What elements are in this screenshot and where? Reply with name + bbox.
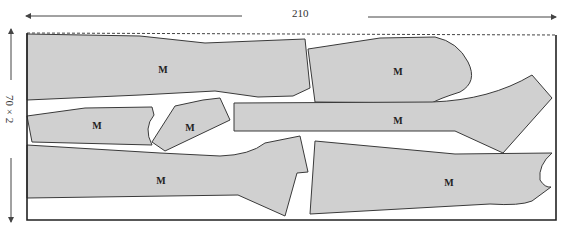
piece-label: M: [444, 177, 454, 188]
width-label: 210: [292, 7, 309, 19]
pattern-piece-1: M: [27, 34, 310, 100]
marker-diagram: 210 70 × 2 M M M M M: [0, 0, 562, 229]
pattern-piece-2: M: [308, 37, 472, 103]
height-label: 70 × 2: [4, 95, 16, 123]
fold-line: [27, 33, 556, 35]
piece-label: M: [393, 66, 403, 77]
pattern-piece-7: M: [310, 141, 552, 214]
piece-label: M: [393, 115, 403, 126]
pattern-piece-4: M: [152, 98, 230, 151]
height-dimension: 70 × 2: [4, 29, 16, 222]
pattern-pieces: M M M M M M M: [27, 34, 552, 216]
piece-label: M: [158, 64, 168, 75]
pattern-piece-3: M: [27, 107, 154, 145]
piece-label: M: [92, 120, 102, 131]
piece-label: M: [156, 175, 166, 186]
width-dimension: 210: [26, 7, 556, 19]
piece-label: M: [185, 122, 195, 133]
